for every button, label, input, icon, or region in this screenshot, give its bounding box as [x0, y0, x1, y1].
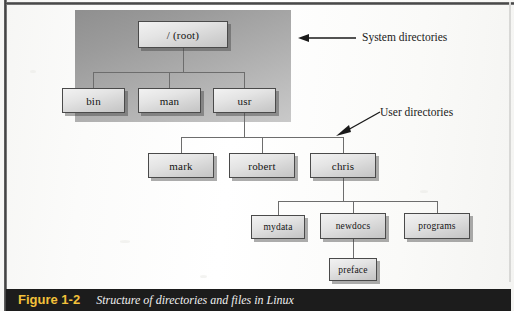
paper-speck — [30, 70, 36, 73]
node-bin-label: bin — [86, 95, 101, 107]
edge-level3-bus — [278, 201, 437, 202]
node-preface-label: preface — [338, 265, 367, 275]
node-robert[interactable]: robert — [229, 153, 295, 178]
node-root[interactable]: / (root) — [138, 21, 228, 48]
figure-page: / (root) bin man usr mark robert chris m… — [0, 0, 514, 311]
edge-bus-to-robert — [262, 137, 263, 153]
edge-root-stem — [183, 48, 184, 72]
user-directories-arrow-icon — [336, 110, 382, 136]
node-programs[interactable]: programs — [404, 213, 470, 239]
figure-caption-bar: Figure 1-2 Structure of directories and … — [6, 289, 511, 311]
node-mydata[interactable]: mydata — [251, 215, 305, 239]
edge-bus-to-man — [169, 72, 170, 88]
edge-bus-to-programs — [437, 201, 438, 213]
user-directories-label: User directories — [380, 106, 453, 118]
node-mark-label: mark — [169, 160, 192, 172]
node-root-label: / (root) — [167, 29, 199, 41]
node-newdocs[interactable]: newdocs — [320, 213, 386, 239]
system-directories-arrow-icon — [298, 30, 358, 46]
edge-bus-to-mark — [181, 137, 182, 153]
node-robert-label: robert — [248, 160, 275, 172]
system-directories-label: System directories — [362, 31, 447, 43]
edge-bus-to-bin — [93, 72, 94, 88]
node-chris-label: chris — [332, 160, 354, 172]
edge-newdocs-to-preface — [353, 239, 354, 258]
node-mydata-label: mydata — [263, 222, 292, 232]
node-chris[interactable]: chris — [310, 153, 376, 178]
node-newdocs-label: newdocs — [336, 221, 371, 231]
paper-speck — [420, 190, 428, 193]
edge-bus-to-newdocs — [353, 201, 354, 213]
node-preface[interactable]: preface — [329, 258, 377, 281]
edge-usr-stem — [244, 113, 245, 137]
edge-bus-to-mydata — [278, 201, 279, 215]
scan-border-left — [4, 0, 7, 311]
node-bin[interactable]: bin — [62, 88, 125, 113]
node-usr[interactable]: usr — [213, 88, 276, 113]
paper-speck — [200, 275, 207, 278]
edge-bus-to-chris — [343, 137, 344, 153]
node-mark[interactable]: mark — [148, 153, 214, 178]
scan-border-right — [509, 2, 511, 282]
figure-number: Figure 1-2 — [18, 292, 80, 307]
paper-speck — [120, 240, 130, 243]
node-man-label: man — [160, 95, 180, 107]
edge-chris-stem — [343, 178, 344, 201]
scan-border-top — [6, 2, 514, 5]
edge-bus-to-usr — [244, 72, 245, 88]
node-programs-label: programs — [418, 221, 455, 231]
figure-caption-text: Structure of directories and files in Li… — [96, 293, 294, 308]
node-man[interactable]: man — [138, 88, 201, 113]
node-usr-label: usr — [237, 95, 251, 107]
